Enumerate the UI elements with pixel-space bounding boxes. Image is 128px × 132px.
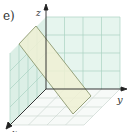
- x-axis-label: x: [12, 128, 17, 132]
- z-axis-label: z: [35, 8, 41, 18]
- diagram-canvas: e) z y x: [0, 0, 128, 132]
- y-arrow-icon: [121, 87, 127, 91]
- panel-label: e): [3, 9, 15, 23]
- z-arrow-icon: [44, 4, 48, 10]
- y-axis-label: y: [116, 94, 123, 105]
- 3d-plane-diagram: e) z y x: [0, 0, 128, 132]
